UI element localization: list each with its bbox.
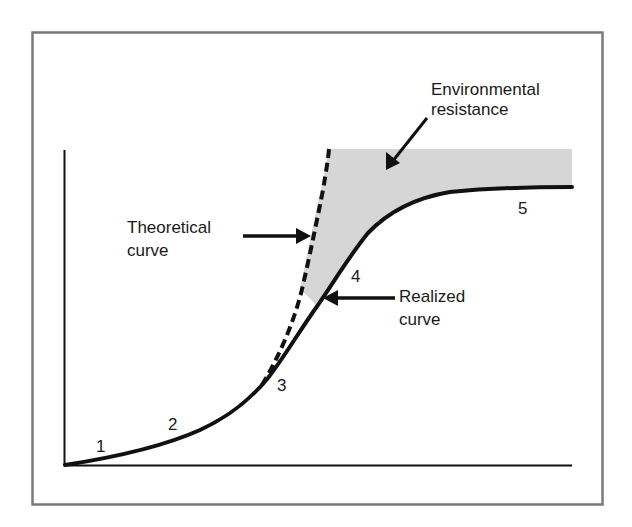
stage-1-label: 1 — [96, 437, 105, 456]
realized-curve-label-line2: curve — [399, 310, 441, 329]
theoretical-curve-label-line2: curve — [127, 241, 169, 260]
environmental-resistance-label-line1: Environmental — [431, 80, 540, 99]
growth-curve-diagram: Environmental resistance Theoretical cur… — [0, 0, 632, 527]
stage-2-label: 2 — [168, 415, 177, 434]
realized-curve-label-line1: Realized — [399, 287, 465, 306]
environmental-resistance-label-line2: resistance — [431, 100, 508, 119]
stage-4-label: 4 — [351, 267, 360, 286]
stage-5-label: 5 — [518, 199, 527, 218]
stage-3-label: 3 — [277, 376, 286, 395]
theoretical-curve-label-line1: Theoretical — [127, 218, 211, 237]
